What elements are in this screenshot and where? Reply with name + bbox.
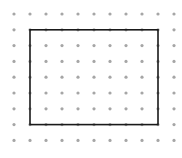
grid-dot bbox=[76, 91, 79, 94]
grid-dot bbox=[44, 76, 47, 79]
grid-dot bbox=[12, 60, 15, 63]
grid-dot bbox=[92, 12, 95, 15]
grid-dot bbox=[172, 12, 175, 15]
grid-dot bbox=[12, 28, 15, 31]
grid-dot bbox=[12, 91, 15, 94]
grid-dot bbox=[92, 60, 95, 63]
grid-dot bbox=[60, 107, 63, 110]
grid-dots bbox=[12, 12, 175, 142]
grid-dot bbox=[44, 91, 47, 94]
grid-dot bbox=[124, 139, 127, 142]
grid-dot bbox=[60, 91, 63, 94]
grid-dot bbox=[44, 44, 47, 47]
grid-dot bbox=[108, 60, 111, 63]
grid-dot bbox=[92, 139, 95, 142]
grid-dot bbox=[108, 91, 111, 94]
grid-dot bbox=[92, 91, 95, 94]
grid-dot bbox=[76, 76, 79, 79]
grid-dot bbox=[140, 44, 143, 47]
grid-dot bbox=[172, 91, 175, 94]
grid-dot bbox=[60, 76, 63, 79]
grid-dot bbox=[172, 76, 175, 79]
grid-dot bbox=[172, 107, 175, 110]
grid-dot bbox=[92, 44, 95, 47]
dot-grid-diagram bbox=[0, 0, 182, 158]
grid-dot bbox=[156, 12, 159, 15]
grid-dot bbox=[12, 107, 15, 110]
grid-dot bbox=[140, 76, 143, 79]
grid-dot bbox=[44, 12, 47, 15]
grid-dot bbox=[108, 107, 111, 110]
grid-dot bbox=[108, 139, 111, 142]
grid-dot bbox=[140, 60, 143, 63]
grid-dot bbox=[12, 76, 15, 79]
grid-dot bbox=[140, 12, 143, 15]
grid-dot bbox=[60, 139, 63, 142]
grid-dot bbox=[156, 139, 159, 142]
grid-dot bbox=[124, 12, 127, 15]
grid-dot bbox=[76, 12, 79, 15]
grid-dot bbox=[124, 44, 127, 47]
grid-dot bbox=[124, 91, 127, 94]
grid-dot bbox=[140, 91, 143, 94]
grid-dot bbox=[60, 60, 63, 63]
grid-dot bbox=[28, 139, 31, 142]
grid-dot bbox=[76, 139, 79, 142]
grid-dot bbox=[76, 107, 79, 110]
grid-dot bbox=[12, 12, 15, 15]
grid-dot bbox=[140, 139, 143, 142]
grid-dot bbox=[172, 60, 175, 63]
grid-dot bbox=[124, 76, 127, 79]
grid-dot bbox=[140, 107, 143, 110]
grid-dot bbox=[172, 28, 175, 31]
grid-dot bbox=[12, 139, 15, 142]
grid-dot bbox=[172, 123, 175, 126]
grid-dot bbox=[76, 60, 79, 63]
grid-dot bbox=[124, 107, 127, 110]
grid-dot bbox=[60, 12, 63, 15]
grid-dot bbox=[124, 60, 127, 63]
grid-dot bbox=[92, 107, 95, 110]
grid-dot bbox=[108, 44, 111, 47]
grid-dot bbox=[12, 44, 15, 47]
grid-dot bbox=[44, 60, 47, 63]
grid-dot bbox=[108, 76, 111, 79]
grid-dot bbox=[108, 12, 111, 15]
grid-dot bbox=[44, 107, 47, 110]
grid-dot bbox=[12, 123, 15, 126]
grid-dot bbox=[76, 44, 79, 47]
grid-dot bbox=[172, 44, 175, 47]
grid-dot bbox=[172, 139, 175, 142]
grid-dot bbox=[28, 12, 31, 15]
grid-dot bbox=[44, 139, 47, 142]
grid-dot bbox=[92, 76, 95, 79]
grid-dot bbox=[60, 44, 63, 47]
